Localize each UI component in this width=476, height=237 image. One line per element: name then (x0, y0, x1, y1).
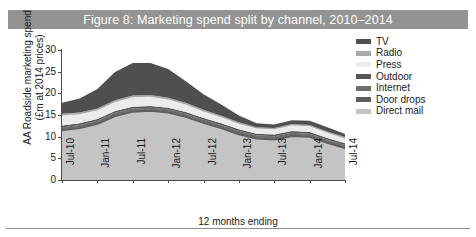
legend-item-label: Press (376, 60, 402, 70)
figure-title: Figure 8: Marketing spend split by chann… (83, 13, 393, 27)
legend-item-label: Door drops (376, 95, 425, 105)
x-axis-tick-mark (274, 180, 275, 183)
legend-swatch-icon (356, 109, 371, 114)
bottom-divider (6, 228, 470, 229)
legend-item[interactable]: Internet (356, 82, 472, 94)
legend-item[interactable]: TV (356, 36, 472, 48)
legend-swatch-icon (356, 39, 371, 44)
y-axis-tick-label: 15 (30, 110, 56, 120)
legend-item[interactable]: Radio (356, 48, 472, 60)
legend-item[interactable]: Press (356, 59, 472, 71)
legend-item-label: Radio (376, 48, 402, 58)
y-axis-title-line2: (£m at 2014 prices) (33, 3, 45, 153)
legend-swatch-icon (356, 62, 371, 67)
x-axis-tick-label: Jul-13 (278, 138, 288, 184)
legend-item[interactable]: Outdoor (356, 71, 472, 83)
x-axis-tick-label: Jul-14 (349, 138, 359, 184)
x-axis-tick-mark (239, 180, 240, 183)
x-axis-tick-label: Jan-12 (172, 138, 182, 184)
legend-item-label: Direct mail (376, 106, 423, 116)
y-axis-tick-label: 10 (30, 132, 56, 142)
legend-item-label: TV (376, 37, 389, 47)
figure-container: Figure 8: Marketing spend split by chann… (0, 0, 476, 237)
legend-item[interactable]: Direct mail (356, 106, 472, 118)
x-axis-tick-label: Jan-11 (101, 138, 111, 184)
figure-title-bar: Figure 8: Marketing spend split by chann… (8, 10, 468, 29)
legend-item[interactable]: Door drops (356, 94, 472, 106)
legend: TVRadioPressOutdoorInternetDoor dropsDir… (356, 36, 472, 117)
x-axis-tick-mark (204, 180, 205, 183)
x-axis-tick-label: Jan-13 (243, 138, 253, 184)
x-axis-tick-mark (345, 180, 346, 183)
legend-item-label: Internet (376, 83, 410, 93)
x-axis-tick-mark (310, 180, 311, 183)
y-axis-title-line1: AA Roadside marketing spend (22, 3, 34, 153)
x-axis-tick-mark (62, 180, 63, 183)
legend-swatch-icon (356, 51, 371, 56)
x-axis-title: 12 months ending (0, 216, 476, 227)
legend-swatch-icon (356, 97, 371, 102)
y-axis-tick-label: 30 (30, 45, 56, 55)
x-axis-tick-mark (133, 180, 134, 183)
y-axis-tick-label: 25 (30, 67, 56, 77)
x-axis-tick-mark (168, 180, 169, 183)
x-axis-tick-label: Jul-12 (208, 138, 218, 184)
y-axis-tick-label: 0 (30, 175, 56, 185)
legend-item-label: Outdoor (376, 72, 412, 82)
x-axis-tick-label: Jul-11 (137, 138, 147, 184)
y-axis-tick-label: 5 (30, 153, 56, 163)
y-axis-title: AA Roadside marketing spend (£m at 2014 … (22, 3, 45, 153)
legend-swatch-icon (356, 74, 371, 79)
x-axis-tick-label: Jan-14 (314, 138, 324, 184)
legend-swatch-icon (356, 86, 371, 91)
y-axis-tick-label: 20 (30, 88, 56, 98)
x-axis-tick-label: Jul-10 (66, 138, 76, 184)
x-axis-tick-mark (97, 180, 98, 183)
